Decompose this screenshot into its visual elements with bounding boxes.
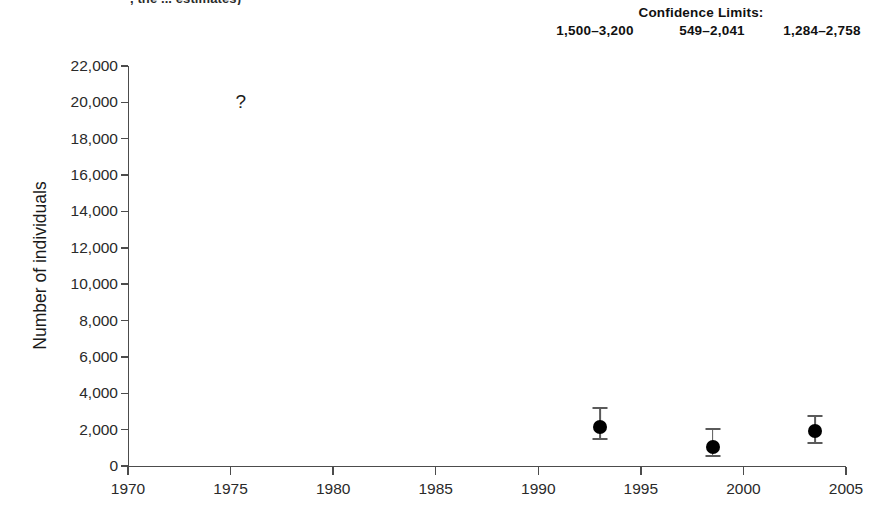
x-tick-label: 1990 bbox=[521, 480, 555, 498]
x-tick-label: 1970 bbox=[111, 480, 145, 498]
x-tick bbox=[332, 467, 333, 475]
y-tick bbox=[121, 356, 128, 357]
error-bar-cap-upper bbox=[592, 407, 607, 409]
y-tick-label: 22,000 bbox=[46, 57, 118, 75]
y-tick bbox=[121, 174, 128, 175]
chart-figure: , the ... estimates) Confidence Limits: … bbox=[0, 0, 882, 518]
error-bar-cap-lower bbox=[592, 438, 607, 440]
y-tick-label: 8,000 bbox=[46, 312, 118, 330]
x-tick bbox=[640, 467, 641, 475]
y-tick bbox=[121, 138, 128, 139]
x-tick bbox=[435, 467, 436, 475]
x-tick bbox=[845, 467, 846, 475]
x-tick bbox=[127, 467, 128, 475]
data-point-marker bbox=[706, 440, 720, 454]
y-tick-label: 0 bbox=[46, 457, 118, 475]
y-tick-label: 2,000 bbox=[46, 421, 118, 439]
y-tick-label: 10,000 bbox=[46, 275, 118, 293]
error-bar-cap-upper bbox=[808, 415, 823, 417]
plot-area: Number of individuals 02,0004,0006,0008,… bbox=[0, 0, 882, 518]
data-point-marker bbox=[808, 424, 822, 438]
x-tick bbox=[743, 467, 744, 475]
error-bar-cap-lower bbox=[705, 455, 720, 457]
x-tick bbox=[538, 467, 539, 475]
x-tick-label: 2000 bbox=[726, 480, 760, 498]
y-tick bbox=[121, 429, 128, 430]
y-tick-label: 12,000 bbox=[46, 239, 118, 257]
x-tick bbox=[230, 467, 231, 475]
y-axis-title: Number of individuals bbox=[30, 116, 51, 416]
x-tick-label: 1975 bbox=[213, 480, 247, 498]
y-tick bbox=[121, 393, 128, 394]
x-tick-label: 1995 bbox=[624, 480, 658, 498]
x-tick-label: 1985 bbox=[418, 480, 452, 498]
unknown-estimate-annotation: ? bbox=[236, 91, 247, 113]
y-tick bbox=[121, 102, 128, 103]
y-tick bbox=[121, 247, 128, 248]
y-tick-label: 4,000 bbox=[46, 384, 118, 402]
y-axis-line bbox=[128, 66, 129, 467]
y-tick bbox=[121, 320, 128, 321]
y-tick bbox=[121, 283, 128, 284]
y-tick-label: 16,000 bbox=[46, 166, 118, 184]
y-tick bbox=[121, 211, 128, 212]
y-tick bbox=[121, 65, 128, 66]
error-bar-cap-lower bbox=[808, 442, 823, 444]
x-axis-line bbox=[128, 466, 846, 467]
y-tick-label: 18,000 bbox=[46, 130, 118, 148]
y-tick-label: 6,000 bbox=[46, 348, 118, 366]
y-tick-label: 14,000 bbox=[46, 202, 118, 220]
y-tick-label: 20,000 bbox=[46, 93, 118, 111]
x-tick-label: 1980 bbox=[316, 480, 350, 498]
error-bar-cap-upper bbox=[705, 428, 720, 430]
data-point-marker bbox=[593, 420, 607, 434]
x-tick-label: 2005 bbox=[829, 480, 863, 498]
